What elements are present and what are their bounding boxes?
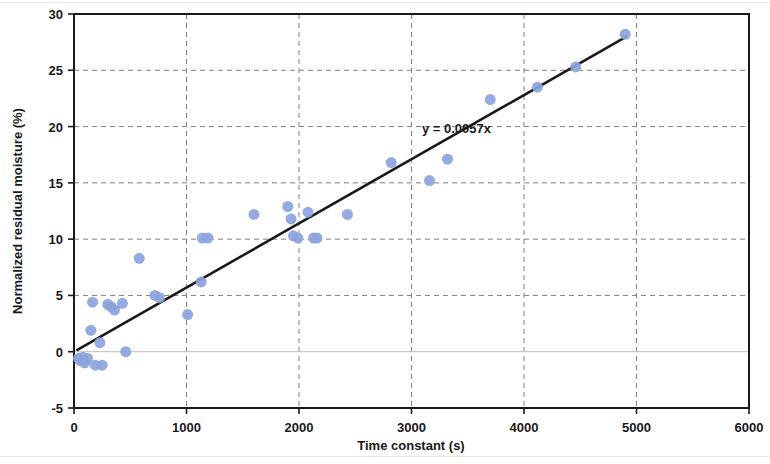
y-axis-tick-label: 30 (49, 7, 63, 22)
x-axis-tick-label: 1000 (172, 420, 201, 435)
data-point (292, 233, 303, 244)
data-point (312, 233, 323, 244)
trendline-equation-label: y = 0.0057x (422, 121, 492, 136)
y-axis-tick-label: 10 (49, 232, 63, 247)
data-point (154, 292, 165, 303)
data-point (286, 213, 297, 224)
data-point (424, 175, 435, 186)
data-point (532, 82, 543, 93)
data-point (87, 297, 98, 308)
data-point (303, 207, 314, 218)
data-point (442, 154, 453, 165)
y-axis-tick-label: 20 (49, 120, 63, 135)
x-axis-tick-label: 3000 (397, 420, 426, 435)
data-point (120, 346, 131, 357)
data-point (85, 325, 96, 336)
y-axis-title: Normalized residual moisture (%) (10, 108, 25, 314)
x-axis-tick-label: 4000 (510, 420, 539, 435)
x-axis-tick-label: 0 (70, 420, 77, 435)
y-axis-tick-label: -5 (51, 401, 63, 416)
data-point (342, 209, 353, 220)
x-axis-tick-label: 2000 (285, 420, 314, 435)
data-point (620, 29, 631, 40)
x-axis-tick-label: 6000 (735, 420, 764, 435)
data-point (196, 276, 207, 287)
data-point (97, 360, 108, 371)
data-point (282, 201, 293, 212)
data-point (202, 233, 213, 244)
y-axis-tick-label: 25 (49, 63, 63, 78)
y-axis-tick-labels: -5051015202530 (49, 7, 63, 416)
data-point (485, 94, 496, 105)
x-axis-title: Time constant (s) (357, 438, 464, 453)
scatter-plot: -5051015202530 0100020003000400050006000… (0, 0, 770, 464)
x-axis-tick-label: 5000 (622, 420, 651, 435)
y-axis-tick-label: 5 (56, 288, 63, 303)
data-point (182, 309, 193, 320)
data-point (134, 253, 145, 264)
data-point (386, 157, 397, 168)
data-point (94, 337, 105, 348)
data-point (117, 298, 128, 309)
data-point (249, 209, 260, 220)
y-axis-tick-label: 15 (49, 176, 63, 191)
y-axis-tick-label: 0 (56, 345, 63, 360)
x-axis-tick-labels: 0100020003000400050006000 (70, 420, 763, 435)
data-point (570, 61, 581, 72)
chart-figure: -5051015202530 0100020003000400050006000… (0, 0, 770, 464)
